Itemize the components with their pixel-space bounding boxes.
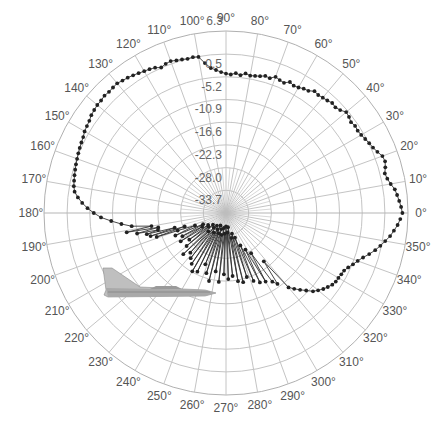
data-point (159, 66, 163, 70)
data-point (131, 73, 135, 77)
data-point (262, 259, 266, 263)
data-point (383, 172, 387, 176)
data-point (244, 72, 248, 76)
angle-tick-label: 30° (386, 109, 404, 123)
angle-tick-label: 10° (409, 172, 427, 186)
data-point (298, 288, 302, 292)
data-point (330, 101, 334, 105)
data-point (85, 124, 89, 128)
data-point (385, 177, 389, 181)
data-point (183, 225, 187, 229)
data-point (321, 96, 325, 100)
data-point (99, 216, 103, 220)
angle-tick-label: 310° (339, 355, 364, 369)
data-point (334, 105, 338, 109)
data-point (292, 287, 296, 291)
angle-tick-label: 170° (22, 172, 47, 186)
data-point (268, 76, 272, 80)
data-point (307, 89, 311, 93)
data-point (396, 223, 400, 227)
data-point (121, 79, 125, 83)
data-point (153, 66, 157, 70)
data-point (258, 74, 262, 78)
data-point (359, 133, 363, 137)
data-point (224, 72, 228, 76)
angle-tick-label: 110° (147, 23, 171, 37)
angle-tick-label: 300° (311, 375, 336, 389)
data-point (75, 157, 79, 161)
data-point (187, 238, 191, 242)
data-point (181, 252, 185, 256)
angle-tick-label: 160° (30, 139, 55, 153)
data-point (399, 205, 403, 209)
data-point (282, 81, 286, 85)
data-point (222, 272, 226, 276)
data-point (378, 244, 382, 248)
angle-tick-label: 150° (45, 109, 70, 123)
data-point (270, 280, 274, 284)
data-point (207, 279, 211, 283)
data-point (226, 277, 230, 281)
data-point (276, 282, 280, 286)
data-point (397, 199, 401, 203)
data-point (197, 55, 201, 59)
data-point (297, 86, 301, 90)
data-point (231, 274, 235, 278)
data-point (367, 141, 371, 145)
data-point (212, 231, 216, 235)
data-point (196, 270, 200, 274)
data-point (311, 289, 315, 293)
data-point (200, 225, 204, 229)
data-point (383, 159, 387, 163)
data-point (234, 71, 238, 75)
data-point (239, 244, 243, 248)
data-point (135, 232, 139, 236)
data-point (145, 232, 149, 236)
data-point (346, 266, 350, 270)
data-point (376, 150, 380, 154)
data-point (252, 279, 256, 283)
data-point (74, 162, 78, 166)
data-point (356, 129, 360, 133)
radial-tick-label: -10.9 (195, 102, 223, 116)
data-point (87, 119, 91, 123)
angle-tick-label: 350° (406, 240, 431, 254)
data-point (334, 280, 338, 284)
data-point (401, 211, 405, 215)
data-point (219, 224, 223, 228)
data-point (206, 229, 210, 233)
data-point (179, 239, 183, 243)
data-point (130, 224, 134, 228)
angle-tick-label: 70° (284, 23, 302, 37)
data-point (383, 239, 387, 243)
data-point (363, 137, 367, 141)
data-point (347, 115, 351, 119)
data-point (169, 59, 173, 63)
data-point (236, 279, 240, 283)
data-point (175, 59, 179, 63)
data-point (73, 190, 77, 194)
data-point (120, 222, 124, 226)
data-point (189, 256, 193, 260)
data-point (111, 86, 115, 90)
angle-tick-label: 60° (314, 37, 332, 51)
data-point (381, 154, 385, 158)
data-point (304, 289, 308, 293)
data-point (207, 225, 211, 229)
angle-tick-label: 210° (45, 304, 70, 318)
data-point (148, 67, 152, 71)
data-point (292, 84, 296, 88)
data-point (337, 276, 341, 280)
data-point (137, 71, 141, 75)
data-point (245, 275, 249, 279)
data-point (367, 252, 371, 256)
angle-tick-label: 100° (180, 14, 205, 28)
angle-tick-label: 280° (247, 398, 272, 412)
radial-tick-label: -5.2 (201, 80, 222, 94)
data-point (353, 124, 357, 128)
data-point (174, 234, 178, 238)
data-point (180, 58, 184, 62)
data-point (229, 236, 233, 240)
radial-tick-label: -16.6 (195, 125, 223, 139)
data-point (99, 99, 103, 103)
